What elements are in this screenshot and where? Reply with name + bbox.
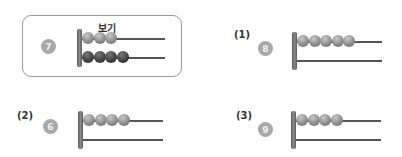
- question-2-number-circle: 6: [43, 119, 58, 134]
- bead: [331, 114, 343, 126]
- bead-row-bottom: [82, 51, 128, 63]
- bead: [332, 35, 344, 47]
- bead-row-top: [297, 35, 355, 47]
- abacus-rod-bottom: [296, 139, 381, 141]
- example-abacus: [77, 29, 165, 67]
- bead: [118, 114, 130, 126]
- bead: [95, 114, 107, 126]
- question-3-abacus: [291, 111, 381, 149]
- bead: [105, 51, 117, 63]
- abacus-rod-bottom: [83, 139, 163, 141]
- bead: [83, 114, 95, 126]
- example-number-circle: 7: [41, 39, 56, 54]
- bead: [105, 32, 117, 44]
- question-1-number-circle: 8: [258, 41, 273, 56]
- bead: [106, 114, 118, 126]
- bead: [296, 114, 308, 126]
- bead: [94, 51, 106, 63]
- bead: [94, 32, 106, 44]
- abacus-rod-bottom: [297, 60, 382, 62]
- bead: [309, 35, 321, 47]
- question-2-label: (2): [17, 110, 33, 121]
- bead: [117, 51, 129, 63]
- question-1-label: (1): [234, 29, 250, 40]
- bead: [343, 35, 355, 47]
- bead-row-top: [82, 32, 117, 44]
- bead: [82, 32, 94, 44]
- question-3-label: (3): [236, 110, 252, 121]
- question-1-abacus: [292, 32, 382, 70]
- bead-row-top: [296, 114, 342, 126]
- bead: [297, 35, 309, 47]
- question-3-number-circle: 9: [258, 122, 273, 137]
- bead: [308, 114, 320, 126]
- bead: [320, 35, 332, 47]
- question-2-abacus: [78, 111, 163, 149]
- bead: [82, 51, 94, 63]
- bead-row-top: [83, 114, 129, 126]
- bead: [319, 114, 331, 126]
